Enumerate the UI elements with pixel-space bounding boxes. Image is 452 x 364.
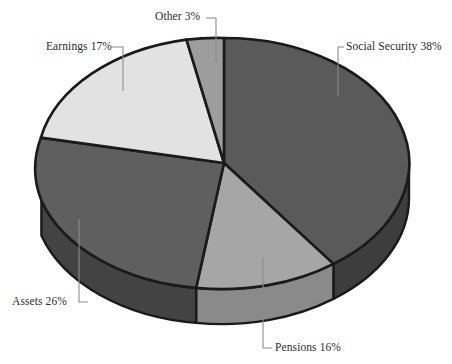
pie-label-assets: Assets 26% — [12, 295, 67, 307]
pie-label-earnings: Earnings 17% — [46, 40, 112, 52]
pie-label-social-security: Social Security 38% — [346, 40, 442, 52]
pie-label-pensions: Pensions 16% — [275, 341, 341, 353]
pie-chart-graphic — [0, 0, 452, 364]
pie-label-other: Other 3% — [155, 10, 200, 22]
pie-top-face — [35, 38, 409, 289]
pie-chart-page: Social Security 38% Pensions 16% Assets … — [0, 0, 452, 364]
